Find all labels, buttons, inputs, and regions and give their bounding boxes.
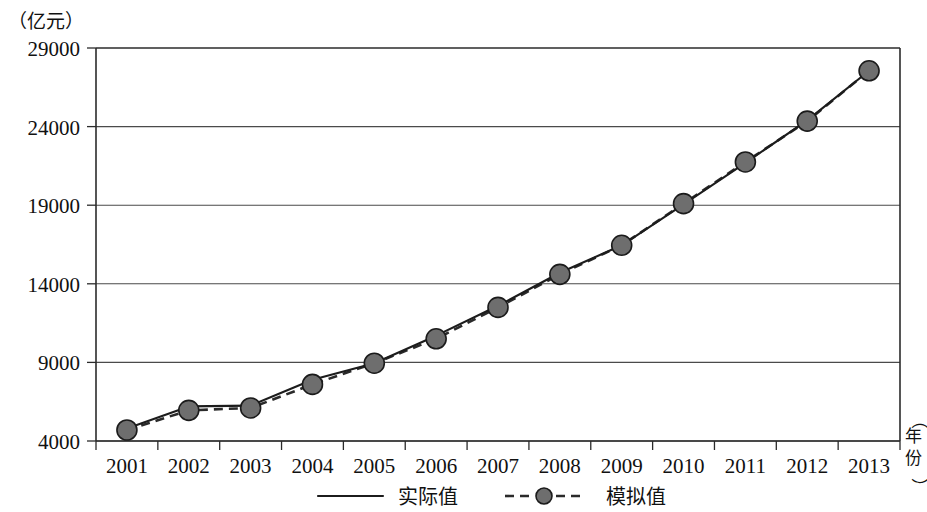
data-point-marker bbox=[797, 111, 817, 131]
x-tick-label: 2002 bbox=[168, 454, 210, 478]
data-point-marker bbox=[488, 297, 508, 317]
x-axis-unit-char: 年 bbox=[905, 427, 922, 446]
line-chart: （亿元） 4000900014000190002400029000 200120… bbox=[0, 0, 927, 512]
chart-container: （亿元） 4000900014000190002400029000 200120… bbox=[0, 0, 927, 512]
y-axis-unit-label: （亿元） bbox=[8, 11, 84, 32]
data-point-marker bbox=[859, 61, 879, 81]
legend-label-simulated: 模拟值 bbox=[606, 486, 666, 508]
x-tick-label: 2012 bbox=[786, 454, 828, 478]
data-point-marker bbox=[179, 400, 199, 420]
x-tick-label: 2004 bbox=[291, 454, 334, 478]
x-axis-unit-char: 份 bbox=[905, 449, 922, 468]
data-point-marker bbox=[612, 235, 632, 255]
y-tick-label: 14000 bbox=[28, 273, 81, 297]
data-point-marker bbox=[117, 420, 137, 440]
x-tick-label: 2008 bbox=[539, 454, 581, 478]
x-axis-unit-char: ） bbox=[909, 478, 927, 495]
data-point-marker bbox=[674, 194, 694, 214]
data-point-marker bbox=[302, 374, 322, 394]
chart-background bbox=[0, 0, 927, 512]
data-point-marker bbox=[241, 398, 261, 418]
x-tick-label: 2007 bbox=[477, 454, 519, 478]
x-tick-label: 2009 bbox=[601, 454, 643, 478]
x-tick-label: 2011 bbox=[725, 454, 766, 478]
x-tick-label: 2003 bbox=[230, 454, 272, 478]
y-tick-label: 9000 bbox=[38, 351, 80, 375]
x-tick-label: 2010 bbox=[663, 454, 705, 478]
x-tick-label: 2001 bbox=[106, 454, 148, 478]
x-tick-label: 2013 bbox=[848, 454, 890, 478]
y-tick-label: 24000 bbox=[28, 116, 81, 140]
y-tick-label: 29000 bbox=[28, 37, 81, 61]
x-axis-unit-char: （ bbox=[909, 412, 927, 429]
y-tick-label: 19000 bbox=[28, 194, 81, 218]
legend-label-actual: 实际值 bbox=[398, 486, 458, 508]
legend-marker-simulated bbox=[536, 488, 552, 504]
data-point-marker bbox=[426, 329, 446, 349]
x-tick-label: 2006 bbox=[415, 454, 457, 478]
data-point-marker bbox=[364, 353, 384, 373]
x-tick-label: 2005 bbox=[353, 454, 395, 478]
y-tick-label: 4000 bbox=[38, 430, 80, 454]
data-point-marker bbox=[735, 152, 755, 172]
data-point-marker bbox=[550, 264, 570, 284]
